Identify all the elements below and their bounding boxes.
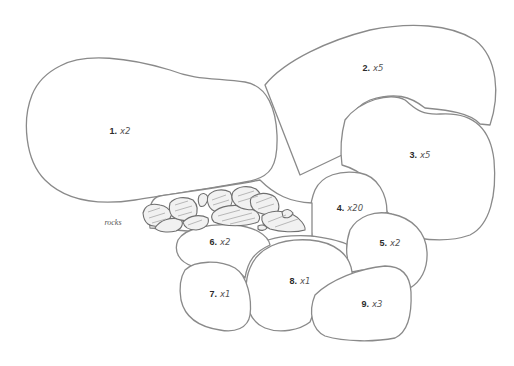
piece-quantity: x5 xyxy=(420,150,430,160)
piece-number: 8. xyxy=(290,276,298,286)
piece-number: 6. xyxy=(210,237,218,247)
piece-number: 3. xyxy=(410,150,418,160)
piece-quantity: x20 xyxy=(347,203,363,213)
piece-quantity: x2 xyxy=(390,238,400,248)
piece-4-label: 4.x20 xyxy=(337,203,363,213)
piece-quantity: x2 xyxy=(120,126,130,136)
piece-6-label: 6.x2 xyxy=(210,237,231,247)
piece-1-outline xyxy=(26,58,277,202)
piece-quantity: x1 xyxy=(220,289,230,299)
piece-number: 4. xyxy=(337,203,345,213)
piece-2-label: 2.x5 xyxy=(363,63,384,73)
piece-quantity: x2 xyxy=(220,237,230,247)
piece-9-label: 9.x3 xyxy=(362,299,383,309)
piece-quantity: x1 xyxy=(300,276,310,286)
piece-quantity: x3 xyxy=(372,299,382,309)
piece-3-label: 3.x5 xyxy=(410,150,431,160)
piece-number: 5. xyxy=(380,238,388,248)
piece-number: 2. xyxy=(363,63,371,73)
piece-1-label: 1.x2 xyxy=(110,126,131,136)
sketch-canvas xyxy=(0,0,514,366)
piece-number: 7. xyxy=(210,289,218,299)
piece-number: 1. xyxy=(110,126,118,136)
rocks-annotation: rocks xyxy=(104,218,121,227)
piece-7-label: 7.x1 xyxy=(210,289,231,299)
piece-5-label: 5.x2 xyxy=(380,238,401,248)
piece-8-label: 8.x1 xyxy=(290,276,311,286)
piece-quantity: x5 xyxy=(373,63,383,73)
piece-number: 9. xyxy=(362,299,370,309)
